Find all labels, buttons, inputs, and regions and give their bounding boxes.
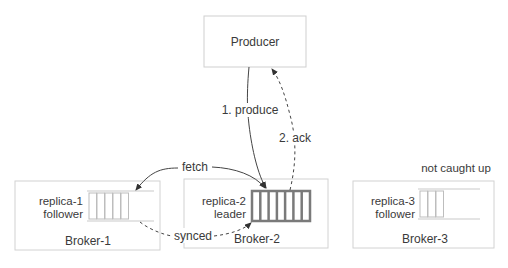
broker-2-label: Broker-2 [234,232,280,246]
replica-1-role: follower [43,208,83,220]
broker-1-node: replica-1 follower Broker-1 [15,181,160,250]
producer-node: Producer [204,16,306,67]
ack-label: 2. ack [279,131,312,145]
replica-2-label: replica-2 [202,195,246,207]
not-caught-up-label: not caught up [421,162,491,174]
replica-3-label: replica-3 [371,195,415,207]
producer-label: Producer [231,35,280,49]
broker-3-label: Broker-3 [402,232,448,246]
replica-3-role: follower [375,208,415,220]
replica-2-role: leader [214,208,246,220]
broker-1-label: Broker-1 [65,234,111,248]
synced-label: synced [174,229,212,243]
produce-arrow: 1. produce [222,67,279,188]
broker-3-node: replica-3 follower Broker-3 not caught u… [353,162,494,248]
ack-arrow: 2. ack [272,69,312,190]
replica-1-label: replica-1 [39,195,83,207]
kafka-replication-diagram: Producer replica-1 follower Broker-1 rep… [0,0,508,268]
fetch-label: fetch [182,160,208,174]
produce-label: 1. produce [222,103,279,117]
